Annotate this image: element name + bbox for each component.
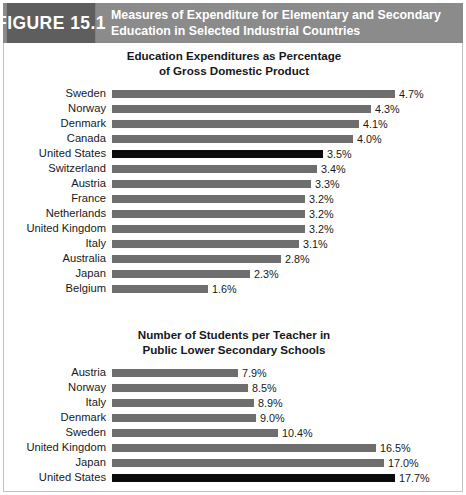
bar-track: 4.0% (112, 132, 464, 147)
bar-value-label: 3.5% (327, 148, 352, 160)
bar-value-label: 3.1% (303, 238, 328, 250)
bar-row-label: Denmark (4, 412, 112, 423)
bar (112, 90, 395, 98)
bar-track: 4.7% (112, 87, 464, 102)
bar-row-label: Netherlands (4, 208, 112, 219)
bar-row: Sweden10.4% (4, 426, 464, 441)
chart-2-title-line-1: Number of Students per Teacher in (34, 327, 434, 342)
bar-track: 3.1% (112, 237, 464, 252)
bar (112, 399, 254, 407)
bar (112, 255, 281, 263)
bar-track: 4.3% (112, 102, 464, 117)
bar-value-label: 8.5% (252, 382, 277, 394)
bar-track: 3.2% (112, 192, 464, 207)
bar-value-label: 4.0% (357, 133, 382, 145)
bar (112, 369, 238, 377)
bar-value-label: 3.3% (315, 178, 340, 190)
bar (112, 120, 359, 128)
bar (112, 414, 256, 422)
bar-track: 8.5% (112, 381, 464, 396)
bar-row-label: United Kingdom (4, 442, 112, 453)
bar-row: Norway4.3% (4, 102, 464, 117)
bar-row: Italy8.9% (4, 396, 464, 411)
chart-1-rows: Sweden4.7%Norway4.3%Denmark4.1%Canada4.0… (4, 87, 464, 297)
bar-value-label: 3.2% (309, 193, 334, 205)
bar-value-label: 2.3% (254, 268, 279, 280)
bar-track: 9.0% (112, 411, 464, 426)
bar-track: 3.5% (112, 147, 464, 162)
bar-value-label: 3.4% (321, 163, 346, 175)
bar-row: Austria7.9% (4, 366, 464, 381)
bar-row: Canada4.0% (4, 132, 464, 147)
chart-2-title-line-2: Public Lower Secondary Schools (34, 342, 434, 357)
bar (112, 270, 250, 278)
bar-row-label: Denmark (4, 118, 112, 129)
bar (112, 444, 376, 452)
bar-track: 3.3% (112, 177, 464, 192)
bar (112, 195, 305, 203)
bar-row: Denmark9.0% (4, 411, 464, 426)
bar-row-label: Norway (4, 103, 112, 114)
bar-track: 8.9% (112, 396, 464, 411)
bar (112, 180, 311, 188)
bar (112, 429, 278, 437)
bar-highlighted (112, 150, 323, 158)
bar-row: Australia2.8% (4, 252, 464, 267)
bar-row-label: Norway (4, 382, 112, 393)
bar-track: 7.9% (112, 366, 464, 381)
bar-row: Norway8.5% (4, 381, 464, 396)
bar-value-label: 4.3% (375, 103, 400, 115)
bar-value-label: 4.1% (363, 118, 388, 130)
bar-track: 2.3% (112, 267, 464, 282)
bar-value-label: 2.8% (285, 253, 310, 265)
bar (112, 384, 248, 392)
bar-track: 3.4% (112, 162, 464, 177)
figure-title-line-1: Measures of Expenditure for Elementary a… (111, 7, 457, 24)
bar-value-label: 8.9% (258, 397, 283, 409)
bar-row: Switzerland3.4% (4, 162, 464, 177)
bar-row: United Kingdom3.2% (4, 222, 464, 237)
bar-row-label: Belgium (4, 283, 112, 294)
bar-row-label: United States (4, 148, 112, 159)
bar-row-label: France (4, 193, 112, 204)
bar-row: France3.2% (4, 192, 464, 207)
bar-row: Japan17.0% (4, 456, 464, 471)
bar-row-label: Japan (4, 268, 112, 279)
bar-track: 10.4% (112, 426, 464, 441)
bar-row-label: Japan (4, 457, 112, 468)
bar-row: Japan2.3% (4, 267, 464, 282)
bar (112, 285, 208, 293)
bar-value-label: 7.9% (242, 367, 267, 379)
bar-highlighted (112, 474, 395, 482)
bar-row: United States17.7% (4, 471, 464, 486)
chart-education-expenditures: Education Expenditures as Percentage of … (4, 48, 464, 297)
bar-value-label: 3.2% (309, 223, 334, 235)
bar-row: Belgium1.6% (4, 282, 464, 297)
bar-track: 3.2% (112, 222, 464, 237)
bar (112, 135, 353, 143)
bar-row-label: United Kingdom (4, 223, 112, 234)
bar-value-label: 10.4% (282, 427, 313, 439)
figure-header: FIGURE 15.1 Measures of Expenditure for … (3, 3, 463, 43)
bar (112, 240, 299, 248)
bar-value-label: 4.7% (399, 88, 424, 100)
bar-track: 17.0% (112, 456, 464, 471)
chart-1-title-line-1: Education Expenditures as Percentage (34, 48, 434, 63)
bar-row: Italy3.1% (4, 237, 464, 252)
bar (112, 225, 305, 233)
bar-value-label: 17.0% (388, 457, 419, 469)
bar-row-label: Sweden (4, 427, 112, 438)
bar-row-label: Italy (4, 238, 112, 249)
bar-track: 17.7% (112, 471, 464, 486)
bar-value-label: 9.0% (260, 412, 285, 424)
bar-track: 2.8% (112, 252, 464, 267)
bar-value-label: 3.2% (309, 208, 334, 220)
bar-row-label: Italy (4, 397, 112, 408)
bar-value-label: 16.5% (380, 442, 411, 454)
chart-2-title: Number of Students per Teacher in Public… (4, 327, 464, 358)
bar-row-label: Sweden (4, 88, 112, 99)
bar (112, 459, 384, 467)
bar-row: United States3.5% (4, 147, 464, 162)
bar-row-label: Canada (4, 133, 112, 144)
bar (112, 105, 371, 113)
